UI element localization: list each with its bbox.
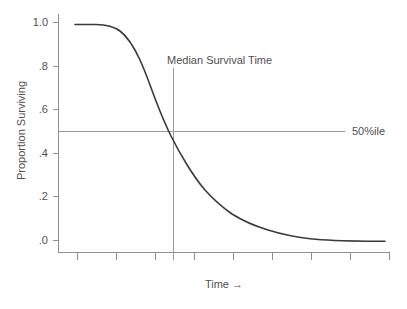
y-tick-label: .4 bbox=[39, 147, 48, 159]
y-axis-title: Proportion Surviving bbox=[15, 81, 27, 180]
y-tick-label: .6 bbox=[39, 103, 48, 115]
y-tick-label: .2 bbox=[39, 190, 48, 202]
y-tick-label: .8 bbox=[39, 60, 48, 72]
y-tick-label: 1.0 bbox=[33, 16, 48, 28]
y-axis-ticks bbox=[53, 23, 59, 241]
x-axis-title: Time → bbox=[205, 278, 243, 290]
x-axis-ticks bbox=[78, 253, 390, 261]
y-tick-label: .0 bbox=[39, 234, 48, 246]
survival-curve-chart: 1.0 .8 .6 .4 .2 .0 Median Survival Time … bbox=[0, 0, 407, 309]
chart-canvas: 1.0 .8 .6 .4 .2 .0 Median Survival Time … bbox=[0, 0, 407, 309]
fifty-percentile-label: 50%ile bbox=[352, 125, 385, 137]
median-survival-time-label: Median Survival Time bbox=[167, 54, 272, 66]
